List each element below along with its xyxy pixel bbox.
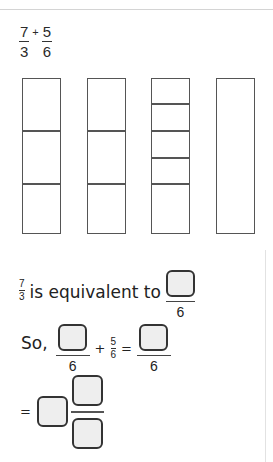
denominator: 6 [43, 42, 51, 59]
plus-sign: + [32, 26, 38, 38]
partition-line [23, 183, 60, 185]
denominator: 6 [111, 349, 117, 360]
step2-answer-fraction: 6 [56, 324, 90, 373]
denominator: 6 [69, 356, 77, 373]
partition-line [152, 103, 189, 105]
step1-answer-fraction: 6 [166, 270, 195, 319]
problem-fraction-2: 5 6 [42, 24, 52, 59]
denominator: 3 [20, 42, 28, 59]
step3-fraction [71, 375, 104, 449]
answer-box-whole-number[interactable] [37, 396, 68, 427]
partition-line [23, 130, 60, 132]
plus-sign: + [95, 341, 106, 356]
top-divider [0, 9, 273, 10]
denominator-slot [72, 413, 103, 449]
partition-line [88, 130, 125, 132]
answer-box-step2-numerator[interactable] [58, 324, 87, 351]
partition-line [152, 183, 189, 185]
step-mixed-number: = [20, 375, 104, 449]
answer-box-step2-result-numerator[interactable] [139, 324, 168, 351]
denominator: 6 [176, 302, 184, 319]
equals-sign: = [20, 404, 31, 419]
numerator: 5 [111, 337, 117, 348]
problem-expression: 7 3 + 5 6 [19, 24, 52, 59]
answer-box-step3-numerator[interactable] [72, 375, 103, 406]
numerator-slot [72, 375, 103, 411]
denominator: 3 [19, 291, 25, 302]
partition-line [152, 130, 189, 132]
bar-model-sixths [151, 78, 190, 234]
numerator-slot [139, 324, 168, 355]
step2-result-fraction: 6 [137, 324, 171, 373]
step2-fraction: 5 6 [111, 337, 117, 360]
partition-line [152, 157, 189, 159]
step1-fraction: 7 3 [19, 279, 25, 302]
equivalent-text: is equivalent to [30, 282, 161, 302]
numerator: 5 [42, 24, 52, 41]
numerator-slot [58, 324, 87, 355]
numerator: 7 [19, 24, 29, 41]
numerator: 7 [19, 279, 25, 290]
denominator: 6 [150, 356, 158, 373]
partition-line [88, 183, 125, 185]
step-equivalent: 7 3 is equivalent to 6 [19, 256, 195, 305]
so-label: So, [21, 333, 48, 353]
answer-box-step1-numerator[interactable] [166, 270, 195, 297]
bar-model-thirds-2 [87, 78, 126, 234]
step-sum: So, 6 + 5 6 = 6 [21, 316, 171, 365]
numerator-slot [166, 270, 195, 301]
bar-model-thirds-1 [22, 78, 61, 234]
bar-model-whole [216, 78, 255, 234]
problem-fraction-1: 7 3 [19, 24, 29, 59]
equals-sign: = [121, 341, 132, 356]
right-divider [265, 250, 266, 462]
answer-box-step3-denominator[interactable] [72, 418, 103, 449]
